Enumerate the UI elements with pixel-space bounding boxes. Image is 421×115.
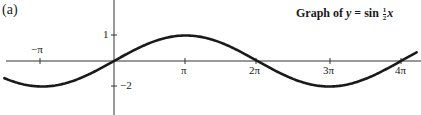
y-tick-label-neg: −2 [120,79,132,91]
x-tick-label-2pi: 2π [249,64,260,76]
x-tick-label-pi: π [181,64,187,76]
x-tick-label-neg-pi: −π [31,43,43,55]
y-tick-label-1: 1 [103,28,109,40]
x-tick-label-3pi: 3π [323,64,334,76]
plot-area [0,0,421,115]
x-tick-label-4pi: 4π [395,64,406,76]
